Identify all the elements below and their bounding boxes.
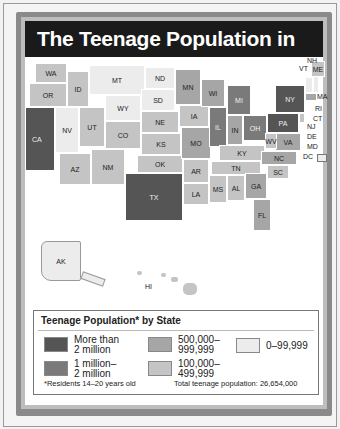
- label-nj: NJ: [307, 123, 316, 130]
- state-wv: WV: [265, 133, 277, 149]
- hi-island: [137, 271, 142, 275]
- label-hi: HI: [145, 283, 152, 290]
- legend-label-1m-2m: 1 million–2 million: [74, 359, 116, 379]
- state-nm: NM: [91, 149, 125, 185]
- state-mi: MI: [227, 85, 251, 115]
- ak-panhandle: [80, 271, 105, 287]
- legend-label-over-2m: More than2 million: [74, 335, 119, 355]
- state-wy: WY: [105, 95, 141, 121]
- state-az: AZ: [59, 153, 91, 185]
- legend-swatch-1m-2m: [44, 361, 68, 376]
- state-ut: UT: [79, 107, 105, 147]
- state-mt: MT: [89, 65, 145, 95]
- state-vt: [305, 77, 313, 93]
- legend-label-100k-499k: 100,000–499,999: [178, 359, 220, 379]
- state-ar: AR: [183, 159, 209, 183]
- state-nd: ND: [145, 67, 175, 89]
- legend-title: Teenage Population* by State: [41, 315, 181, 326]
- state-nc: NC: [261, 151, 297, 165]
- state-wa: WA: [35, 63, 67, 83]
- state-nh: [313, 75, 319, 93]
- frame-inner: The Teenage Population in 1970 WA OR CA …: [21, 17, 327, 409]
- state-in: IN: [227, 115, 243, 145]
- state-ky: KY: [219, 145, 265, 161]
- legend-label-line: 2 million: [74, 368, 111, 379]
- legend-swatch-100k-499k: [148, 361, 172, 376]
- legend-label-line: 999,999: [178, 344, 214, 355]
- us-map: WA OR CA NV ID MT WY UT CO AZ NM ND SD N…: [25, 57, 325, 297]
- hi-island: [161, 273, 166, 277]
- state-ga: GA: [245, 173, 267, 199]
- label-dc: DC: [303, 153, 313, 160]
- state-mn: MN: [175, 69, 201, 105]
- frame: The Teenage Population in 1970 WA OR CA …: [16, 12, 332, 416]
- state-tx: TX: [125, 173, 183, 221]
- label-vt: VT: [299, 65, 308, 72]
- divider: [38, 330, 314, 331]
- state-ks: KS: [141, 133, 181, 155]
- state-id: ID: [67, 71, 89, 107]
- state-nv: NV: [55, 107, 79, 153]
- state-ca: CA: [25, 107, 55, 171]
- state-fl: FL: [253, 199, 271, 231]
- paper: The Teenage Population in 1970 WA OR CA …: [25, 21, 323, 405]
- state-il: IL: [209, 107, 227, 147]
- legend-swatch-500k-999k: [148, 337, 172, 352]
- state-ok: OK: [137, 155, 183, 173]
- legend-swatch-over-2m: [44, 337, 68, 352]
- state-ms: MS: [209, 175, 227, 203]
- label-de: DE: [307, 133, 317, 140]
- state-ma: [305, 93, 317, 101]
- state-sc: SC: [267, 165, 289, 179]
- state-ia: IA: [179, 105, 209, 127]
- state-ak: AK: [41, 241, 81, 281]
- hi-island: [183, 283, 197, 295]
- legend-label-0-99k: 0–99,999: [266, 341, 308, 351]
- total-population: Total teenage population: 26,654,000: [174, 379, 297, 388]
- state-ny: NY: [275, 85, 305, 113]
- legend-swatch-0-99k: [236, 338, 260, 353]
- legend: Teenage Population* by State More than2 …: [33, 310, 319, 395]
- state-sd: SD: [141, 89, 175, 111]
- page-title: The Teenage Population in 1970: [25, 21, 323, 57]
- state-wi: WI: [201, 79, 225, 107]
- state-la: LA: [183, 183, 209, 205]
- label-md: MD: [307, 143, 318, 150]
- map-figure: The Teenage Population in 1970 WA OR CA …: [3, 3, 337, 427]
- state-or: OR: [29, 83, 67, 107]
- state-mo: MO: [181, 127, 211, 159]
- hi-island: [171, 277, 178, 282]
- state-nj: [299, 113, 305, 123]
- label-ct: CT: [313, 115, 322, 122]
- state-ne: NE: [141, 111, 179, 133]
- legend-label-500k-999k: 500,000–999,999: [178, 335, 220, 355]
- legend-label-line: 2 million: [74, 344, 111, 355]
- state-oh: OH: [243, 115, 267, 141]
- footnote: *Residents 14–20 years old: [44, 379, 136, 388]
- legend-label-line: 499,999: [178, 368, 214, 379]
- state-al: AL: [227, 175, 245, 201]
- state-va: VA: [275, 133, 301, 151]
- dc-swatch: [317, 154, 327, 162]
- label-ri: RI: [315, 105, 322, 112]
- label-ma: MA: [317, 93, 328, 100]
- label-nh: NH: [307, 57, 317, 64]
- state-co: CO: [105, 121, 141, 149]
- state-pa: PA: [267, 113, 299, 133]
